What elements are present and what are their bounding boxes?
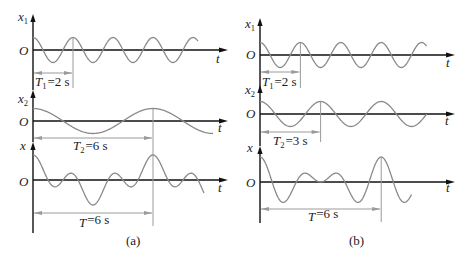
origin-label: O: [246, 106, 256, 121]
t-axis-label: t: [446, 55, 450, 70]
panel-caption: (b): [349, 233, 364, 248]
bracket-left-arrow-icon: [261, 130, 269, 134]
period-label-subscript: 1: [42, 81, 46, 91]
period-label: T2=6 s: [73, 138, 108, 155]
plot-x: xOtT=6 s: [246, 140, 455, 224]
y-axis-label: x: [19, 138, 26, 153]
bracket-right-arrow-icon: [144, 136, 152, 140]
t-axis-arrow-icon: [219, 47, 228, 52]
y-axis-arrow-icon: [257, 146, 262, 154]
period-label: T1=2 s: [262, 74, 297, 91]
panel-a: x1OtT1=2 sx2OtT2=6 sxOtT=6 s(a): [17, 9, 228, 248]
period-label: T=6 s: [79, 212, 109, 230]
panel-caption: (a): [126, 233, 140, 248]
y-axis-label: x: [246, 140, 253, 155]
t-axis-label: t: [218, 180, 222, 195]
y-axis-label: x1: [244, 16, 255, 33]
t-axis-label: t: [446, 180, 450, 195]
y-axis-label-subscript: 1: [251, 23, 255, 33]
y-axis-label-subscript: 2: [24, 98, 28, 108]
y-axis-label-subscript: 2: [251, 89, 255, 99]
t-axis-label: t: [218, 120, 222, 135]
period-label-subscript: 2: [280, 140, 284, 150]
y-axis-label: x2: [17, 91, 28, 108]
waveform-x: [260, 157, 412, 202]
y-axis-arrow-icon: [257, 18, 262, 26]
bracket-left-arrow-icon: [34, 136, 42, 140]
t-axis-label: t: [216, 51, 220, 66]
y-axis-label-var: x: [19, 138, 26, 153]
vibration-superposition-figure: x1OtT1=2 sx2OtT2=6 sxOtT=6 s(a) x1OtT1=2…: [0, 0, 473, 262]
period-label-value: =6 s: [316, 206, 338, 221]
bracket-right-arrow-icon: [312, 130, 320, 134]
period-label-var: T: [308, 209, 316, 224]
plot-x1: x1OtT1=2 s: [17, 9, 228, 91]
y-axis-label-var: x: [246, 140, 253, 155]
bracket-left-arrow-icon: [34, 211, 42, 215]
panel-b: x1OtT1=2 sx2OtT2=3 sxOtT=6 s(b): [244, 16, 455, 248]
period-label: T2=3 s: [273, 133, 308, 150]
t-axis-label: t: [445, 113, 449, 128]
period-label-value: =6 s: [85, 138, 107, 153]
origin-label: O: [19, 43, 29, 58]
y-axis-arrow-icon: [30, 142, 35, 150]
period-label-subscript: 2: [80, 145, 84, 155]
bracket-right-arrow-icon: [372, 207, 380, 211]
origin-label: O: [246, 175, 256, 190]
bracket-left-arrow-icon: [261, 207, 269, 211]
y-axis-label: x1: [17, 9, 28, 26]
y-axis-arrow-icon: [30, 14, 35, 22]
plot-x2: x2OtT2=3 s: [244, 82, 455, 150]
period-label-value: =6 s: [87, 212, 109, 227]
period-label-value: =2 s: [274, 74, 296, 89]
period-label-var: T: [79, 215, 87, 230]
origin-label: O: [246, 47, 256, 62]
origin-label: O: [19, 174, 29, 189]
period-label-value: =3 s: [285, 133, 307, 148]
y-axis-arrow-icon: [30, 90, 35, 98]
y-axis-label: x2: [244, 82, 255, 99]
plot-x: xOtT=6 s: [19, 138, 228, 233]
bracket-right-arrow-icon: [144, 211, 152, 215]
y-axis-label-subscript: 1: [24, 16, 28, 26]
plot-x1: x1OtT1=2 s: [244, 16, 455, 91]
period-label: T=6 s: [308, 206, 338, 224]
origin-label: O: [19, 114, 29, 129]
plot-x2: x2OtT2=6 s: [17, 90, 228, 156]
period-label-subscript: 1: [269, 81, 273, 91]
period-label-value: =2 s: [47, 74, 69, 89]
period-label: T1=2 s: [35, 74, 70, 91]
